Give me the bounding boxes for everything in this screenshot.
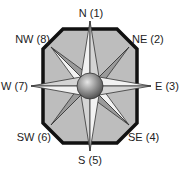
label-e: E (3) [155, 80, 179, 92]
label-n: N (1) [79, 7, 103, 19]
label-s: S (5) [78, 154, 102, 166]
label-se: SE (4) [128, 131, 159, 143]
label-sw: SW (6) [17, 131, 51, 143]
label-ne: NE (2) [132, 33, 164, 45]
label-nw: NW (8) [15, 33, 50, 45]
label-w: W (7) [1, 80, 28, 92]
center-sphere [77, 73, 103, 99]
compass-rose-diagram: N (1) NE (2) E (3) SE (4) S (5) SW (6) W… [0, 0, 183, 173]
